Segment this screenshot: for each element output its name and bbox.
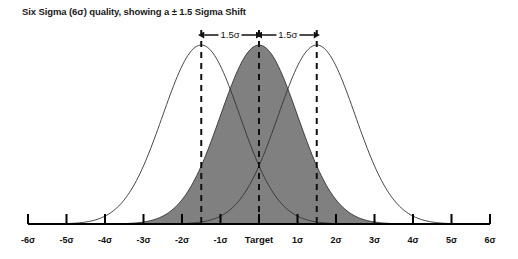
axis-tick-label: 5σ <box>446 235 457 245</box>
axis-tick-label: -4σ <box>98 235 112 245</box>
axis-tick-label: 3σ <box>369 235 380 245</box>
axis-tick-label: 4σ <box>407 235 418 245</box>
axis-tick-label: 1σ <box>292 235 303 245</box>
shift-arrow-label: 1.5σ <box>276 29 299 40</box>
axis-tick-label: -3σ <box>136 235 150 245</box>
axis-label-target: Target <box>245 234 273 245</box>
axis-tick-label: -6σ <box>21 235 35 245</box>
shift-arrow-label: 1.5σ <box>219 29 242 40</box>
chart-plot-area <box>0 0 518 259</box>
axis-tick-label: -1σ <box>213 235 227 245</box>
axis-tick-label: 2σ <box>330 235 341 245</box>
axis-tick-label: -5σ <box>59 235 73 245</box>
axis-tick-label: -2σ <box>175 235 189 245</box>
axis-tick-label: 6σ <box>484 235 495 245</box>
six-sigma-figure: Six Sigma (6σ) quality, showing a ± 1.5 … <box>0 0 518 259</box>
